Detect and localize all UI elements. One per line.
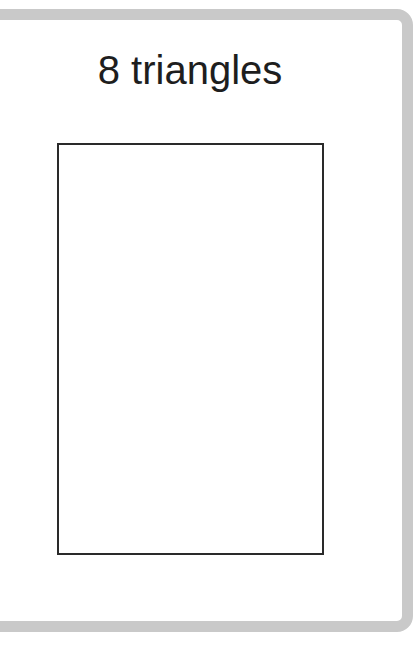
card-title: 8 triangles: [0, 50, 380, 90]
rectangle-drawing-area[interactable]: [57, 143, 324, 555]
